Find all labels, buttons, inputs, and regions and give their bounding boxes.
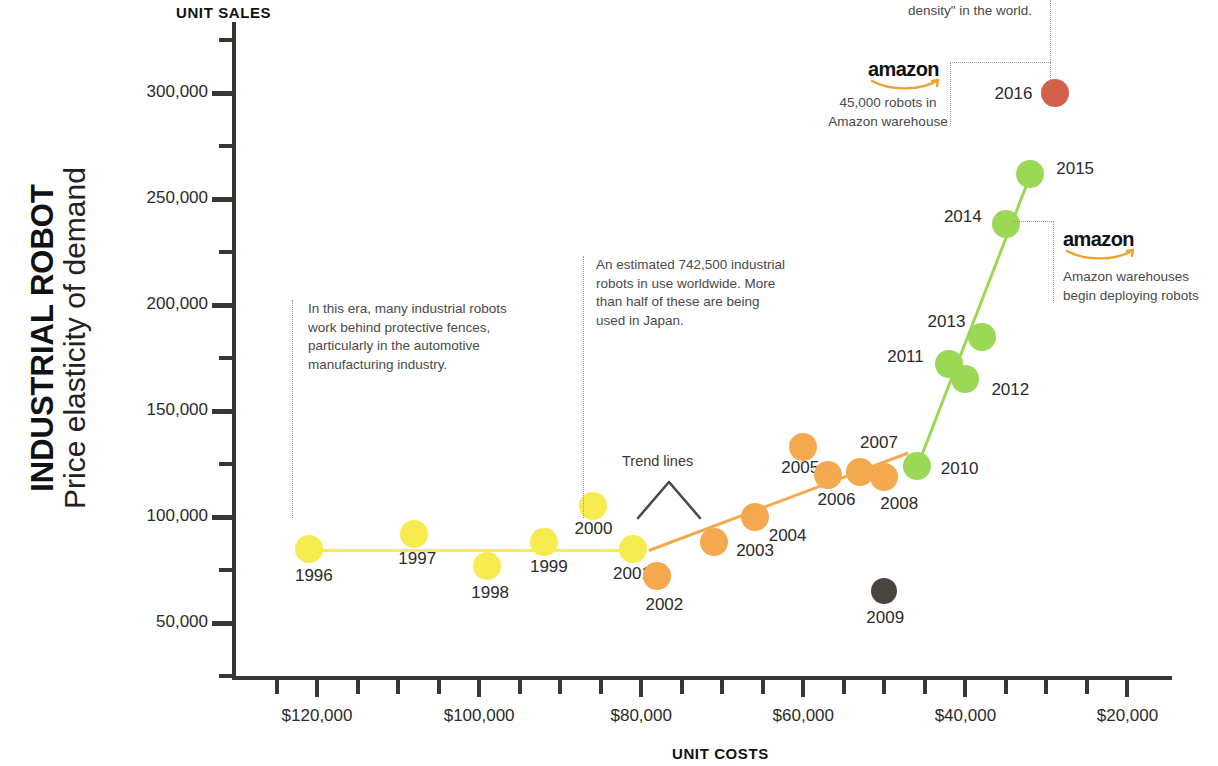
y-tick-label: 50,000 — [98, 612, 208, 632]
data-point-label-2012: 2012 — [991, 380, 1029, 400]
data-point-label-2011: 2011 — [887, 347, 924, 367]
x-tick-label: $100,000 — [409, 706, 549, 726]
data-point-label-2016: 2016 — [995, 84, 1033, 104]
data-point-label-2004: 2004 — [769, 526, 807, 546]
x-axis-major-tick — [639, 680, 643, 697]
data-point-2010 — [903, 452, 931, 480]
amazon-deploy-leader-horizontal — [1013, 221, 1054, 222]
japan-note-leader-line — [583, 256, 584, 518]
data-point-label-1998: 1998 — [471, 583, 509, 603]
yellow-era-trend — [309, 549, 633, 552]
data-point-2001 — [619, 535, 647, 563]
y-axis-major-tick — [212, 515, 232, 520]
x-axis-name: UNIT COSTS — [672, 745, 769, 762]
data-point-2012 — [951, 365, 979, 393]
y-tick-label: 300,000 — [98, 82, 208, 102]
data-point-label-1997: 1997 — [398, 549, 436, 569]
data-point-label-2015: 2015 — [1056, 159, 1094, 179]
data-point-2005 — [789, 433, 817, 461]
y-axis-major-tick — [212, 303, 232, 308]
chart-canvas: INDUSTRIAL ROBOT Price elasticity of dem… — [0, 0, 1218, 766]
y-axis-minor-tick — [219, 144, 232, 148]
chart-subtitle: Price elasticity of demand — [60, 167, 90, 509]
data-point-1999 — [530, 528, 558, 556]
data-point-label-2006: 2006 — [818, 490, 856, 510]
y-axis-major-tick — [212, 91, 232, 96]
japan-note: An estimated 742,500 industrial robots i… — [596, 256, 814, 331]
x-axis-minor-tick — [437, 680, 441, 694]
x-axis-major-tick — [963, 680, 967, 697]
amazon-wordmark-left: amazon — [868, 58, 946, 81]
data-point-label-1996: 1996 — [295, 566, 333, 586]
x-tick-label: $120,000 — [247, 706, 387, 726]
x-axis-minor-tick — [1004, 680, 1008, 694]
data-point-1997 — [400, 520, 428, 548]
data-point-2016 — [1041, 79, 1069, 107]
data-point-label-2014: 2014 — [944, 207, 982, 227]
x-axis-minor-tick — [882, 680, 886, 694]
x-tick-label: $40,000 — [895, 706, 1035, 726]
y-axis-line — [232, 22, 236, 680]
y-axis-minor-tick — [219, 250, 232, 254]
amazon-deploy-note: Amazon warehouses begin deploying robots — [1063, 268, 1218, 305]
y-axis-major-tick — [212, 409, 232, 414]
x-axis-major-tick — [477, 680, 481, 697]
x-axis-minor-tick — [558, 680, 562, 694]
data-point-2002 — [643, 562, 671, 590]
data-point-label-1999: 1999 — [530, 557, 568, 577]
y-tick-label: 150,000 — [98, 400, 208, 420]
data-point-label-2007: 2007 — [860, 433, 898, 453]
y-tick-label: 200,000 — [98, 294, 208, 314]
density-note-leader-line — [1050, 0, 1051, 86]
y-axis-major-tick — [212, 197, 232, 202]
y-axis-minor-tick — [219, 462, 232, 466]
x-axis-major-tick — [1125, 680, 1129, 697]
data-point-2013 — [968, 323, 996, 351]
data-point-label-2002: 2002 — [645, 595, 683, 615]
era-note: In this era, many industrial robots work… — [308, 300, 566, 375]
data-point-2003 — [700, 528, 728, 556]
x-axis-minor-tick — [1044, 680, 1048, 694]
data-point-label-2008: 2008 — [880, 494, 918, 514]
data-point-2014 — [992, 210, 1020, 238]
y-axis-minor-tick — [219, 674, 232, 678]
x-tick-label: $80,000 — [571, 706, 711, 726]
x-axis-major-tick — [801, 680, 805, 697]
x-axis-minor-tick — [356, 680, 360, 694]
data-point-2004 — [741, 503, 769, 531]
x-axis-minor-tick — [275, 680, 279, 694]
amazon-logo-right: amazon — [1063, 228, 1141, 262]
amazon-warehouse-leader-horizontal — [950, 62, 1051, 63]
data-point-1996 — [295, 535, 323, 563]
data-point-2006 — [814, 461, 842, 489]
amazon-logo-left: amazon — [868, 58, 946, 92]
trend-lines-pointer-icon — [636, 472, 704, 520]
x-axis-line — [232, 676, 1172, 680]
x-axis-minor-tick — [599, 680, 603, 694]
data-point-2015 — [1016, 160, 1044, 188]
data-point-label-2010: 2010 — [941, 459, 979, 479]
x-tick-label: $60,000 — [733, 706, 873, 726]
trend-lines-label: Trend lines — [622, 453, 693, 469]
x-axis-minor-tick — [396, 680, 400, 694]
data-point-1998 — [473, 552, 501, 580]
x-axis-minor-tick — [1085, 680, 1089, 694]
data-point-2008 — [870, 463, 898, 491]
y-axis-name: UNIT SALES — [176, 4, 271, 21]
x-axis-minor-tick — [842, 680, 846, 694]
data-point-2009 — [871, 578, 897, 604]
amazon-warehouse-note: 45,000 robots in Amazon warehouse — [824, 94, 952, 131]
amazon-deploy-leader-vertical — [1053, 221, 1054, 303]
x-tick-label: $20,000 — [1057, 706, 1197, 726]
x-axis-minor-tick — [720, 680, 724, 694]
data-point-label-2013: 2013 — [928, 312, 966, 332]
amazon-wordmark-right: amazon — [1063, 228, 1141, 251]
chart-title-main: INDUSTRIAL ROBOT — [27, 184, 58, 492]
y-axis-major-tick — [212, 621, 232, 626]
data-point-label-2009: 2009 — [866, 608, 904, 628]
amazon-warehouse-leader-vertical — [950, 62, 951, 126]
era-note-leader-line — [292, 300, 293, 518]
x-axis-minor-tick — [680, 680, 684, 694]
x-axis-minor-tick — [518, 680, 522, 694]
y-axis-minor-tick — [219, 38, 232, 42]
